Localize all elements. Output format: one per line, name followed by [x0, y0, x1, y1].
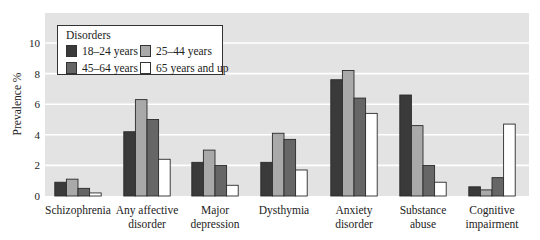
x-category-label: Substance: [400, 204, 447, 216]
y-tick-label: 6: [35, 98, 41, 110]
x-category-label: impairment: [465, 218, 519, 231]
y-axis-label: Prevalence %: [11, 72, 23, 135]
x-category-label: Dysthymia: [259, 204, 309, 217]
bar: [66, 179, 78, 196]
bar: [342, 71, 354, 196]
bar: [159, 159, 171, 196]
bar: [504, 124, 516, 196]
y-tick-label: 0: [35, 190, 41, 202]
y-tick-label: 4: [35, 129, 41, 141]
bar: [192, 162, 204, 196]
legend-item-45-64: 45–64 years: [66, 61, 140, 75]
bar: [480, 190, 492, 196]
x-axis-categories: SchizophreniaAny affectivedisorderMajord…: [45, 204, 519, 231]
y-tick-label: 8: [35, 68, 41, 80]
x-category-label: depression: [190, 218, 239, 231]
y-axis-ticks: 0246810: [29, 37, 41, 202]
legend-item-65-up: 65 years and up: [140, 61, 226, 75]
bar: [492, 178, 504, 196]
bar: [366, 113, 378, 196]
bar: [78, 188, 90, 196]
bar: [261, 162, 273, 196]
x-category-label: Major: [201, 204, 229, 217]
legend: Disorders 18–24 years 25–44 years 45–64 …: [57, 25, 223, 75]
bar: [435, 182, 447, 196]
y-tick-label: 10: [29, 37, 41, 49]
y-tick-label: 2: [35, 159, 41, 171]
x-category-label: Any affective: [116, 204, 179, 217]
legend-swatch: [66, 62, 77, 74]
bar: [272, 133, 284, 196]
bar: [331, 80, 343, 196]
bar: [90, 193, 102, 196]
bar: [203, 150, 215, 196]
x-category-label: disorder: [128, 218, 166, 230]
bar: [147, 120, 159, 197]
bar: [296, 170, 308, 196]
legend-swatch: [140, 62, 151, 74]
bar: [124, 132, 136, 196]
legend-swatch: [66, 45, 77, 57]
bar: [227, 185, 239, 196]
legend-swatch: [140, 45, 151, 57]
legend-item-18-24: 18–24 years: [66, 44, 140, 58]
x-category-label: disorder: [335, 218, 373, 230]
bar: [469, 187, 481, 196]
x-category-label: Anxiety: [335, 204, 372, 217]
x-category-label: abuse: [410, 218, 436, 230]
bar: [400, 95, 412, 196]
legend-item-25-44: 25–44 years: [140, 44, 226, 58]
bar: [55, 182, 67, 196]
legend-title: Disorders: [66, 28, 222, 42]
bar: [354, 98, 366, 196]
bar: [423, 165, 435, 196]
bar: [411, 126, 423, 196]
x-category-label: Cognitive: [469, 204, 514, 217]
bar: [215, 165, 227, 196]
x-category-label: Schizophrenia: [45, 204, 111, 217]
bar: [284, 139, 296, 196]
bar: [135, 100, 147, 196]
